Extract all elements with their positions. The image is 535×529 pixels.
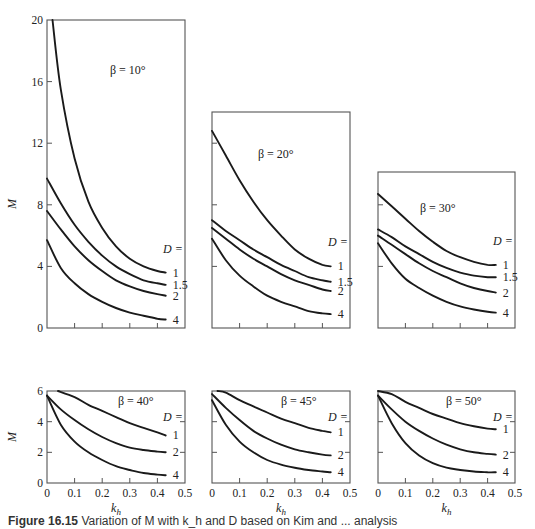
x-tick-label: 0.3 bbox=[123, 487, 138, 499]
y-tick-label: 0 bbox=[37, 322, 43, 334]
x-tick-label: 0.3 bbox=[288, 487, 303, 499]
x-tick-label: 0.5 bbox=[178, 487, 193, 499]
curve-d-1-5 bbox=[378, 229, 496, 277]
curve-d-4 bbox=[47, 240, 166, 319]
y-tick-label: 20 bbox=[32, 14, 44, 26]
x-tick-label: 0.4 bbox=[150, 487, 165, 499]
x-tick-label: 0.1 bbox=[398, 487, 413, 499]
series-label-d-4: 4 bbox=[503, 465, 509, 479]
legend-title: D = bbox=[327, 410, 348, 424]
figure-caption: Figure 16.15 Variation of M with k_h and… bbox=[8, 514, 397, 528]
beta-label: β = 10° bbox=[110, 63, 146, 77]
x-tick-label: 0 bbox=[44, 487, 50, 499]
curve-d-4 bbox=[212, 239, 331, 314]
series-label-d-2: 2 bbox=[503, 448, 509, 462]
series-label-d-1: 1 bbox=[503, 422, 509, 436]
y-tick-label: 4 bbox=[37, 260, 43, 272]
series-label-d-2: 2 bbox=[338, 448, 344, 462]
y-axis-label: M bbox=[5, 431, 19, 443]
x-tick-label: 0.2 bbox=[95, 487, 110, 499]
x-axis-label: kh bbox=[442, 501, 452, 517]
x-tick-label: 0.2 bbox=[426, 487, 441, 499]
legend-title: D = bbox=[162, 242, 183, 256]
series-label-d-1-5: 1.5 bbox=[503, 270, 518, 284]
x-tick-label: 0 bbox=[375, 487, 381, 499]
series-label-d-2: 2 bbox=[173, 289, 179, 303]
y-axis-label: M bbox=[5, 198, 19, 210]
curve-d-1 bbox=[53, 20, 166, 273]
series-label-d-1: 1 bbox=[173, 428, 179, 442]
series-label-d-2: 2 bbox=[503, 286, 509, 300]
legend-title: D = bbox=[327, 235, 348, 249]
figure-canvas: 048121620Mβ = 10°D =11.524β = 20°D =11.5… bbox=[0, 0, 535, 529]
y-tick-label: 4 bbox=[37, 416, 43, 428]
y-tick-label: 12 bbox=[32, 137, 44, 149]
curve-d-1-5 bbox=[212, 220, 331, 282]
plot-4-frame bbox=[47, 391, 185, 483]
x-tick-label: 0.3 bbox=[453, 487, 468, 499]
legend-title: D = bbox=[162, 410, 183, 424]
series-label-d-1: 1 bbox=[338, 259, 344, 273]
x-tick-label: 0.5 bbox=[508, 487, 523, 499]
beta-label: β = 50° bbox=[446, 394, 482, 408]
y-tick-label: 8 bbox=[37, 199, 43, 211]
plot-2-frame bbox=[212, 112, 350, 328]
series-label-d-2: 2 bbox=[173, 445, 179, 459]
series-label-d-1: 1 bbox=[338, 425, 344, 439]
series-label-d-2: 2 bbox=[338, 284, 344, 298]
x-tick-label: 0.4 bbox=[315, 487, 330, 499]
x-tick-label: 0.2 bbox=[260, 487, 275, 499]
x-tick-label: 0.1 bbox=[67, 487, 82, 499]
series-label-d-4: 4 bbox=[173, 313, 179, 327]
beta-label: β = 30° bbox=[420, 201, 456, 215]
legend-title: D = bbox=[492, 234, 513, 248]
x-tick-label: 0.5 bbox=[343, 487, 358, 499]
y-tick-label: 2 bbox=[37, 446, 43, 458]
x-tick-label: 0 bbox=[209, 487, 215, 499]
series-label-d-4: 4 bbox=[503, 306, 509, 320]
y-tick-label: 16 bbox=[32, 76, 44, 88]
beta-label: β = 45° bbox=[281, 394, 317, 408]
series-label-d-4: 4 bbox=[173, 468, 179, 482]
caption-text: Variation of M with k_h and D based on K… bbox=[81, 514, 397, 528]
y-tick-label: 6 bbox=[37, 385, 43, 397]
beta-label: β = 20° bbox=[258, 147, 294, 161]
curve-d-2 bbox=[47, 211, 166, 296]
series-label-d-4: 4 bbox=[338, 307, 344, 321]
beta-label: β = 40° bbox=[118, 394, 154, 408]
series-label-d-4: 4 bbox=[338, 465, 344, 479]
caption-label: Figure 16.15 bbox=[8, 514, 78, 528]
curve-d-4 bbox=[378, 243, 496, 312]
y-tick-label: 0 bbox=[37, 477, 43, 489]
x-tick-label: 0.1 bbox=[232, 487, 247, 499]
x-tick-label: 0.4 bbox=[480, 487, 495, 499]
